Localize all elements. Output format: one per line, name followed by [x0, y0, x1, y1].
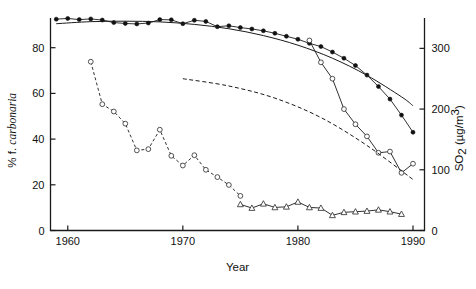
data-point-filled-circle: [89, 17, 93, 21]
data-point-filled-circle: [250, 27, 254, 31]
data-point-open-circle: [319, 60, 324, 65]
data-point-triangle: [376, 207, 382, 212]
data-point-triangle: [306, 204, 312, 209]
data-point-filled-circle: [399, 113, 403, 117]
data-point-filled-circle: [319, 45, 323, 49]
data-point-filled-circle: [66, 16, 70, 20]
x-tick-label: 1990: [401, 235, 425, 247]
series-line-0: [56, 18, 413, 132]
data-point-filled-circle: [296, 37, 300, 41]
y-tick-label-left: 40: [32, 133, 44, 145]
data-point-open-circle: [238, 193, 243, 198]
data-point-filled-circle: [123, 21, 127, 25]
data-point-triangle: [260, 201, 266, 206]
x-tick-label: 1960: [56, 235, 80, 247]
x-axis-title: Year: [226, 261, 249, 273]
data-point-filled-circle: [77, 18, 81, 22]
x-tick-label: 1970: [171, 235, 195, 247]
series-curve-4: [56, 21, 413, 106]
data-point-filled-circle: [238, 26, 242, 30]
y-tick-label-right: 100: [432, 164, 450, 176]
data-point-open-circle: [365, 134, 370, 139]
data-point-open-circle: [123, 121, 128, 126]
y-axis-title-right: SO2 (µg/m3): [449, 105, 468, 171]
data-point-open-circle: [111, 109, 116, 114]
data-point-open-circle: [388, 149, 393, 154]
data-point-filled-circle: [135, 22, 139, 26]
y-axis-title-left: % f. carbonaria: [6, 93, 18, 168]
y-tick-label-left: 0: [38, 225, 44, 237]
data-point-open-circle: [146, 147, 151, 152]
y-tick-label-right: 0: [432, 225, 438, 237]
series-curve-5: [183, 79, 413, 180]
data-point-open-circle: [353, 122, 358, 127]
data-point-open-circle: [180, 163, 185, 168]
y-tick-label-right: 200: [432, 103, 450, 115]
data-point-triangle: [295, 199, 301, 204]
data-point-filled-circle: [204, 19, 208, 23]
chart-figure: 1960197019801990Year0204060800100200300%…: [0, 0, 476, 289]
data-point-open-circle: [169, 153, 174, 158]
data-point-open-circle: [307, 38, 312, 43]
data-point-open-circle: [192, 153, 197, 158]
axis-frame: [51, 18, 425, 231]
y-tick-label-left: 60: [32, 87, 44, 99]
y-tick-label-left: 80: [32, 42, 44, 54]
y-tick-label-right: 300: [432, 42, 450, 54]
data-point-open-circle: [100, 102, 105, 107]
data-point-filled-circle: [376, 85, 380, 89]
data-point-filled-circle: [330, 50, 334, 54]
data-point-open-circle: [411, 161, 416, 166]
data-point-filled-circle: [342, 56, 346, 60]
data-point-filled-circle: [227, 24, 231, 28]
data-point-open-circle: [88, 59, 93, 64]
data-point-open-circle: [134, 148, 139, 153]
data-point-open-circle: [226, 183, 231, 188]
data-point-filled-circle: [273, 31, 277, 35]
data-point-open-circle: [330, 76, 335, 81]
data-point-filled-circle: [411, 130, 415, 134]
data-point-filled-circle: [192, 18, 196, 22]
data-point-filled-circle: [388, 97, 392, 101]
data-point-filled-circle: [284, 34, 288, 38]
x-tick-label: 1980: [286, 235, 310, 247]
series-line-2: [309, 40, 413, 172]
data-point-filled-circle: [353, 64, 357, 68]
data-point-filled-circle: [158, 18, 162, 22]
data-point-filled-circle: [169, 18, 173, 22]
data-point-open-circle: [157, 127, 162, 132]
data-point-filled-circle: [54, 17, 58, 21]
y-tick-label-left: 20: [32, 179, 44, 191]
data-point-triangle: [237, 201, 243, 206]
data-point-open-circle: [203, 167, 208, 172]
data-point-open-circle: [215, 175, 220, 180]
data-point-filled-circle: [261, 29, 265, 33]
data-point-open-circle: [342, 107, 347, 112]
